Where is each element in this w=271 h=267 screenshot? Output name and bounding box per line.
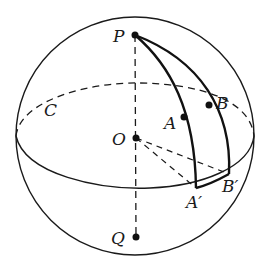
sphere-svg: P O Q A B A′ B′ C	[0, 0, 271, 267]
meridian-pa-aprime	[135, 35, 196, 188]
radius-oa-prime	[136, 138, 196, 188]
point-a	[181, 114, 188, 121]
sphere-diagram: P O Q A B A′ B′ C	[0, 0, 271, 267]
point-b	[206, 102, 213, 109]
radius-ob-prime	[136, 138, 229, 174]
label-p: P	[112, 26, 125, 46]
label-b-prime: B′	[221, 176, 238, 196]
label-o: O	[112, 129, 126, 149]
label-a-prime: A′	[184, 192, 202, 212]
label-b: B	[215, 93, 229, 113]
label-c: C	[44, 100, 57, 120]
point-p	[132, 32, 139, 39]
point-q	[133, 234, 140, 241]
point-o	[133, 135, 140, 142]
label-a: A	[162, 113, 176, 133]
label-q: Q	[111, 228, 125, 248]
